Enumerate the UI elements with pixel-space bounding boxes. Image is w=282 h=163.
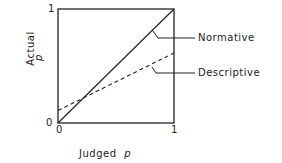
descriptive-label: Descriptive [198, 67, 260, 78]
normative-line [58, 9, 174, 123]
x-tick-0: 0 [56, 124, 62, 135]
x-axis-label-word: Judged [79, 148, 116, 159]
x-axis-label: Judged p [79, 148, 131, 159]
y-axis-label-var: p [33, 52, 44, 64]
x-tick-1: 1 [171, 124, 177, 135]
descriptive-line [58, 53, 174, 111]
chart-plot [0, 0, 282, 163]
normative-label: Normative [198, 32, 255, 43]
x-axis-label-var: p [124, 148, 131, 159]
y-tick-1: 1 [48, 3, 54, 14]
y-tick-0: 0 [46, 117, 52, 128]
